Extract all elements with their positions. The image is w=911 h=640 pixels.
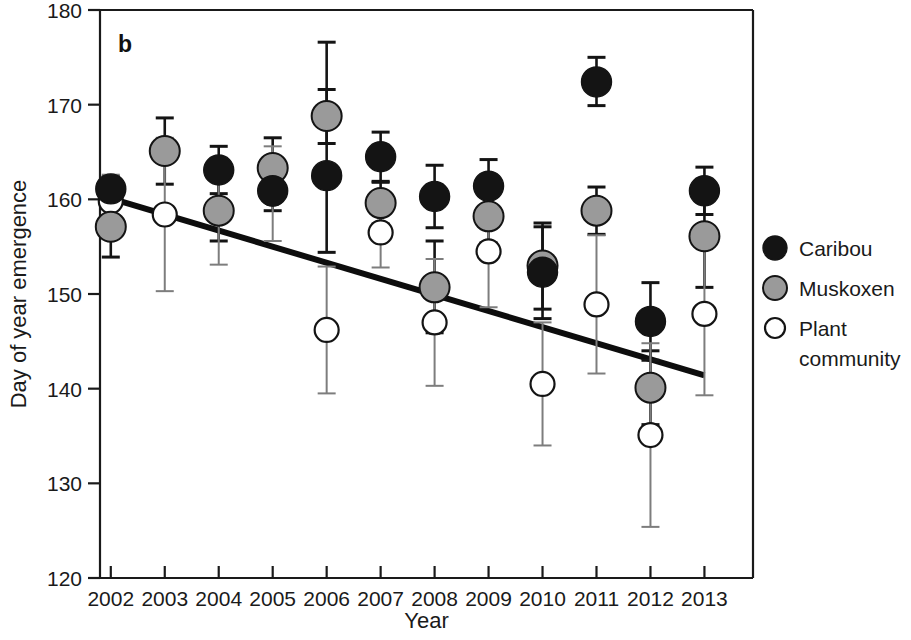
y-tick-label: 180 [47,0,82,22]
data-point-caribou [204,155,234,185]
legend: CaribouMuskoxenPlantcommunity [763,236,901,370]
x-tick-label: 2011 [574,587,619,610]
x-tick-label: 2007 [357,587,404,610]
trendline [111,198,705,375]
data-point-muskoxen [366,188,396,218]
data-point-caribou [635,306,665,336]
x-tick-label: 2008 [411,587,458,610]
regression-trendline [111,198,705,375]
data-point-caribou [420,181,450,211]
data-point-plant-community [477,239,501,263]
legend-marker-plant-community [765,318,785,338]
data-point-plant-community [638,423,662,447]
x-tick-label: 2004 [195,587,242,610]
x-tick-label: 2002 [87,587,134,610]
data-point-plant-community [423,310,447,334]
x-tick-label: 2003 [141,587,188,610]
data-point-plant-community [531,372,555,396]
legend-label-caribou: Caribou [799,237,873,260]
data-point-muskoxen [689,221,719,251]
axis-labels: YearDay of year emergenceb [6,31,449,633]
legend-marker-caribou [763,236,787,260]
data-point-caribou [689,176,719,206]
figure-panel-b: 1201301401501601701802002200320042005200… [0,0,911,640]
x-axis-title: Year [404,608,448,633]
data-point-caribou [581,67,611,97]
data-point-caribou [312,161,342,191]
data-point-plant-community [369,220,393,244]
data-point-muskoxen [96,212,126,242]
y-tick-label: 140 [47,378,82,401]
data-point-plant-community [315,318,339,342]
chart-canvas: 1201301401501601701802002200320042005200… [0,0,911,640]
panel-label: b [118,31,132,57]
x-tick-label: 2009 [465,587,512,610]
x-tick-label: 2006 [303,587,350,610]
legend-marker-muskoxen [763,276,787,300]
data-point-muskoxen [312,101,342,131]
data-point-muskoxen [581,196,611,226]
y-tick-label: 120 [47,567,82,590]
y-axis-title: Day of year emergence [6,180,31,409]
data-point-muskoxen [420,272,450,302]
error-bar [318,42,336,252]
legend-label-plant: Plant [799,317,847,340]
data-point-caribou [528,257,558,287]
y-tick-label: 150 [47,283,82,306]
data-point-caribou [474,171,504,201]
data-point-muskoxen [635,373,665,403]
y-tick-label: 170 [47,94,82,117]
data-point-plant-community [584,292,608,316]
legend-label-community: community [799,347,901,370]
x-tick-label: 2010 [519,587,566,610]
data-point-plant-community [153,202,177,226]
x-tick-label: 2013 [681,587,728,610]
legend-label-muskoxen: Muskoxen [799,277,895,300]
x-tick-label: 2005 [249,587,296,610]
axes: 1201301401501601701802002200320042005200… [47,0,753,610]
data-point-plant-community [692,302,716,326]
data-point-caribou [258,176,288,206]
y-tick-label: 160 [47,188,82,211]
data-point-muskoxen [150,136,180,166]
x-tick-label: 2012 [627,587,674,610]
data-point-caribou [96,174,126,204]
data-point-muskoxen [204,196,234,226]
data-point-caribou [366,142,396,172]
data-point-muskoxen [474,201,504,231]
y-tick-label: 130 [47,472,82,495]
